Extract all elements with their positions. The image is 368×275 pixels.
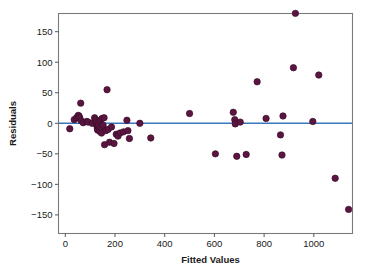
- x-tick-label: 1000: [303, 238, 324, 249]
- y-tick-label: −50: [36, 148, 52, 159]
- data-point: [254, 79, 260, 85]
- data-point: [234, 153, 240, 159]
- y-tick-label: 100: [37, 57, 53, 68]
- data-point: [277, 132, 283, 138]
- data-point: [243, 151, 249, 157]
- y-tick-label: 150: [37, 26, 53, 37]
- data-point: [148, 135, 154, 141]
- y-tick-label: 50: [42, 87, 53, 98]
- x-axis-title: Fitted Values: [181, 254, 240, 265]
- data-point: [125, 127, 131, 133]
- data-point: [237, 119, 243, 125]
- data-point: [290, 65, 296, 71]
- data-point: [186, 110, 192, 116]
- data-point: [279, 152, 285, 158]
- y-tick-label: 0: [47, 118, 52, 129]
- data-point: [104, 87, 110, 93]
- data-point: [230, 109, 236, 115]
- data-point: [345, 206, 351, 212]
- x-tick-label: 800: [256, 238, 272, 249]
- data-point: [111, 140, 117, 146]
- data-point: [332, 175, 338, 181]
- data-point: [212, 151, 218, 157]
- data-point: [310, 118, 316, 124]
- data-point: [316, 72, 322, 78]
- y-axis-title: Residuals: [7, 101, 18, 146]
- y-tick-label: −150: [31, 209, 52, 220]
- x-tick-label: 400: [157, 238, 173, 249]
- y-tick-label: −100: [31, 179, 52, 190]
- residual-plot-figure: −150−100−5005010015002004006008001000Fit…: [0, 0, 368, 275]
- data-point: [124, 117, 130, 123]
- x-tick-label: 0: [63, 238, 68, 249]
- data-point: [108, 124, 114, 130]
- data-point: [292, 10, 298, 16]
- data-point: [101, 115, 107, 121]
- data-point: [280, 113, 286, 119]
- x-tick-label: 600: [206, 238, 222, 249]
- data-point: [78, 100, 84, 106]
- data-point: [67, 126, 73, 132]
- data-point: [263, 115, 269, 121]
- x-tick-label: 200: [107, 238, 123, 249]
- scatter-chart: −150−100−5005010015002004006008001000Fit…: [0, 0, 368, 275]
- data-point: [126, 135, 132, 141]
- data-point: [137, 120, 143, 126]
